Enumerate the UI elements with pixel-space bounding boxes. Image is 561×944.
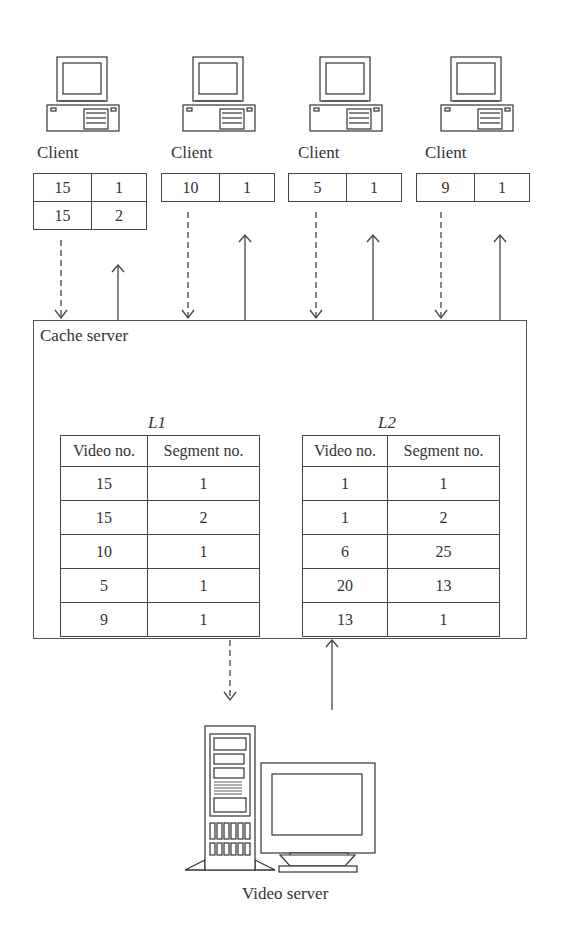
segment-no-cell: 1 <box>148 467 260 501</box>
video-server-label: Video server <box>242 884 328 904</box>
segment-no-cell: 1 <box>388 467 500 501</box>
computer-icon <box>47 57 119 131</box>
table-row: 5 1 <box>289 174 402 202</box>
segment-no-cell: 2 <box>148 501 260 535</box>
list-l1-title: L1 <box>148 413 166 433</box>
table-row: 9 1 <box>61 603 260 637</box>
computer-icon <box>183 57 255 131</box>
table-row: 1 1 <box>303 467 500 501</box>
client-label-2: Client <box>171 143 213 163</box>
client-3-request-table: 5 1 <box>288 173 402 202</box>
column-header-video-no: Video no. <box>61 436 148 467</box>
table-row: 1 2 <box>303 501 500 535</box>
list-l1-table: Video no. Segment no. 15 1 15 2 10 1 5 1… <box>60 435 260 637</box>
video-no-cell: 20 <box>303 569 388 603</box>
video-no-cell: 15 <box>34 202 92 230</box>
video-no-cell: 1 <box>303 501 388 535</box>
table-row: 15 1 <box>34 174 147 202</box>
column-header-segment-no: Segment no. <box>388 436 500 467</box>
client-label-1: Client <box>37 143 79 163</box>
video-no-cell: 6 <box>303 535 388 569</box>
segment-no-cell: 13 <box>388 569 500 603</box>
video-server-icon <box>185 726 375 872</box>
segment-no-cell: 1 <box>220 174 275 202</box>
table-row: 15 2 <box>61 501 260 535</box>
client-label-4: Client <box>425 143 467 163</box>
video-no-cell: 15 <box>61 467 148 501</box>
segment-no-cell: 2 <box>92 202 147 230</box>
client-1-request-table: 15 1 15 2 <box>33 173 147 230</box>
computer-icon <box>310 57 382 131</box>
table-row: 13 1 <box>303 603 500 637</box>
video-no-cell: 10 <box>61 535 148 569</box>
table-row: 5 1 <box>61 569 260 603</box>
table-header-row: Video no. Segment no. <box>61 436 260 467</box>
list-l2-title: L2 <box>378 413 396 433</box>
computer-icon <box>441 57 513 131</box>
table-row: 9 1 <box>417 174 530 202</box>
video-no-cell: 10 <box>162 174 220 202</box>
client-4-request-table: 9 1 <box>416 173 530 202</box>
client-computer-icons <box>47 57 513 131</box>
segment-no-cell: 1 <box>475 174 530 202</box>
segment-no-cell: 1 <box>92 174 147 202</box>
table-row: 6 25 <box>303 535 500 569</box>
column-header-video-no: Video no. <box>303 436 388 467</box>
client-2-request-table: 10 1 <box>161 173 275 202</box>
table-row: 15 1 <box>61 467 260 501</box>
table-row: 10 1 <box>162 174 275 202</box>
video-no-cell: 9 <box>417 174 475 202</box>
segment-no-cell: 2 <box>388 501 500 535</box>
video-no-cell: 15 <box>61 501 148 535</box>
client-label-3: Client <box>298 143 340 163</box>
table-row: 15 2 <box>34 202 147 230</box>
video-no-cell: 13 <box>303 603 388 637</box>
segment-no-cell: 1 <box>148 603 260 637</box>
table-header-row: Video no. Segment no. <box>303 436 500 467</box>
segment-no-cell: 1 <box>148 569 260 603</box>
segment-no-cell: 1 <box>148 535 260 569</box>
video-no-cell: 5 <box>61 569 148 603</box>
video-no-cell: 5 <box>289 174 347 202</box>
video-no-cell: 9 <box>61 603 148 637</box>
cache-server-label: Cache server <box>40 326 128 346</box>
table-row: 20 13 <box>303 569 500 603</box>
list-l2-table: Video no. Segment no. 1 1 1 2 6 25 20 13… <box>302 435 500 637</box>
table-row: 10 1 <box>61 535 260 569</box>
video-no-cell: 15 <box>34 174 92 202</box>
column-header-segment-no: Segment no. <box>148 436 260 467</box>
segment-no-cell: 1 <box>388 603 500 637</box>
segment-no-cell: 25 <box>388 535 500 569</box>
video-no-cell: 1 <box>303 467 388 501</box>
segment-no-cell: 1 <box>347 174 402 202</box>
